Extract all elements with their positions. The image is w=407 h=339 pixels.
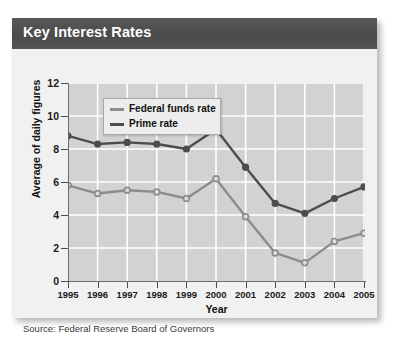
x-tick (216, 282, 217, 288)
y-tick (61, 215, 68, 216)
y-tick-label: 0 (39, 276, 59, 287)
x-axis-line (68, 281, 366, 282)
y-tick-label: 10 (39, 111, 59, 122)
x-tick (364, 282, 365, 288)
x-tick (157, 282, 158, 288)
legend-swatch-federal-funds-rate (110, 108, 124, 111)
x-tick (334, 282, 335, 288)
legend-item-federal-funds-rate: Federal funds rate (110, 102, 216, 116)
x-tick (98, 282, 99, 288)
y-axis-line (68, 83, 69, 282)
y-tick (61, 248, 68, 249)
y-tick-label: 8 (39, 144, 59, 155)
y-tick (61, 116, 68, 117)
page-title: Key Interest Rates (23, 24, 151, 40)
legend-item-prime-rate: Prime rate (110, 117, 178, 131)
y-tick (61, 83, 68, 84)
y-tick-label: 4 (39, 210, 59, 221)
screenshot-root: Key Interest Rates 024681012 19951996199… (0, 0, 407, 339)
y-tick-label: 2 (39, 243, 59, 254)
x-axis-title: Year (68, 303, 365, 315)
x-tick (246, 282, 247, 288)
x-tick (127, 282, 128, 288)
source-note: Source: Federal Reserve Board of Governo… (23, 323, 214, 334)
y-tick (61, 182, 68, 183)
legend-label-prime-rate: Prime rate (129, 119, 178, 129)
legend-swatch-prime-rate (110, 123, 124, 126)
chart-body: 024681012 199519961997199819992000200120… (12, 49, 377, 318)
chart-legend: Federal funds rate Prime rate (103, 98, 221, 135)
y-tick-label: 12 (39, 78, 59, 89)
x-tick (68, 282, 69, 288)
x-tick-label: 2005 (347, 290, 381, 300)
x-tick (305, 282, 306, 288)
legend-label-federal-funds-rate: Federal funds rate (129, 104, 216, 114)
y-tick-label: 6 (39, 177, 59, 188)
x-tick (275, 282, 276, 288)
card-header-bar: Key Interest Rates (12, 18, 377, 49)
y-tick (61, 281, 68, 282)
y-axis-title: Average of daily figures (30, 59, 42, 219)
x-tick (186, 282, 187, 288)
chart-card: Key Interest Rates 024681012 19951996199… (12, 18, 377, 318)
y-tick (61, 149, 68, 150)
